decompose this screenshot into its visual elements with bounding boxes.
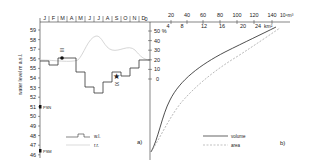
month-axis: J F M A M J J A S O N D bbox=[40, 15, 150, 22]
month-label: A bbox=[106, 15, 110, 21]
star-icon: ★ bbox=[113, 72, 120, 81]
legend-volume-label: volume bbox=[231, 134, 246, 139]
ytick: 56 bbox=[30, 56, 36, 62]
area-tick: 20 bbox=[240, 23, 246, 29]
ytick: 57 bbox=[30, 46, 36, 52]
month-label: J bbox=[43, 15, 46, 21]
y-axis-title: water level m a.s.l. bbox=[17, 54, 23, 95]
volume-curve bbox=[151, 27, 276, 152]
wl-series-step bbox=[40, 58, 150, 93]
month-label: J bbox=[88, 15, 91, 21]
chart-canvas: 59 58 57 56 55 54 53 52 51 50 49 48 47 4… bbox=[0, 0, 314, 165]
area-tick: 8 bbox=[180, 23, 183, 29]
area-tick: 12 bbox=[201, 23, 207, 29]
ytick: 54 bbox=[30, 75, 36, 81]
ytick: 46 bbox=[30, 152, 36, 158]
annotation-label: III bbox=[59, 48, 65, 52]
month-label: O bbox=[123, 15, 128, 21]
ytick: 50 bbox=[30, 113, 36, 119]
month-label: A bbox=[70, 15, 74, 21]
volume-tick: 0 bbox=[144, 16, 147, 22]
percent-tick: 20 bbox=[154, 57, 160, 63]
psn-marker: PSN bbox=[39, 105, 51, 110]
volume-axis: 0 20 40 60 80 100 120 140 10⁶m³ 4 8 12 1… bbox=[144, 12, 293, 29]
ytick: 51 bbox=[30, 104, 36, 110]
area-curve bbox=[151, 28, 280, 152]
right-legend: volume area b) bbox=[203, 134, 285, 148]
psm-marker: PSM bbox=[39, 149, 52, 154]
area-tick: 4 bbox=[166, 23, 169, 29]
rr-series-line bbox=[40, 36, 150, 61]
ytick: 48 bbox=[30, 133, 36, 139]
volume-tick: 60 bbox=[200, 12, 206, 18]
ytick: 59 bbox=[30, 27, 36, 33]
ytick: 53 bbox=[30, 85, 36, 91]
month-label: M bbox=[78, 15, 83, 21]
volume-tick: 20 bbox=[168, 12, 174, 18]
psn-label: PSN bbox=[43, 105, 51, 110]
legend-area-label: area bbox=[231, 143, 241, 148]
annotation-september: ★ IX bbox=[113, 72, 120, 86]
percent-tick: 10 bbox=[154, 66, 160, 72]
ytick: 58 bbox=[30, 37, 36, 43]
volume-tick: 120 bbox=[249, 12, 258, 18]
legend-wl-swatch bbox=[66, 134, 90, 137]
volume-unit: 10⁶m³ bbox=[280, 12, 294, 18]
percent-axis: 50 % 40 30 20 10 0 bbox=[148, 22, 167, 160]
month-label: J bbox=[97, 15, 100, 21]
ytick: 49 bbox=[30, 123, 36, 129]
month-label: N bbox=[133, 15, 137, 21]
area-tick: 24 bbox=[255, 23, 261, 29]
panel-label-a: a) bbox=[137, 139, 142, 145]
panel-label-b: b) bbox=[280, 140, 285, 146]
left-y-ticks: 59 58 57 56 55 54 53 52 51 50 49 48 47 4… bbox=[30, 27, 36, 158]
volume-tick: 80 bbox=[217, 12, 223, 18]
percent-tick: 30 bbox=[154, 47, 160, 53]
month-label: S bbox=[115, 15, 119, 21]
ytick: 52 bbox=[30, 94, 36, 100]
percent-tick: 40 bbox=[154, 38, 160, 44]
month-label: M bbox=[60, 15, 65, 21]
percent-tick: 0 bbox=[156, 76, 159, 82]
volume-tick: 100 bbox=[232, 12, 241, 18]
annotation-label: IX bbox=[114, 81, 120, 86]
psm-label: PSM bbox=[43, 149, 52, 154]
volume-tick: 40 bbox=[184, 12, 190, 18]
month-label: F bbox=[52, 15, 56, 21]
left-legend: w.l. r.r. a) bbox=[66, 134, 142, 148]
ytick: 55 bbox=[30, 65, 36, 71]
area-unit: km² bbox=[264, 23, 273, 29]
ytick: 47 bbox=[30, 142, 36, 148]
legend-rr-label: r.r. bbox=[94, 143, 99, 148]
volume-tick: 140 bbox=[267, 12, 276, 18]
legend-wl-label: w.l. bbox=[94, 134, 101, 139]
percent-tick: 50 % bbox=[154, 28, 167, 34]
